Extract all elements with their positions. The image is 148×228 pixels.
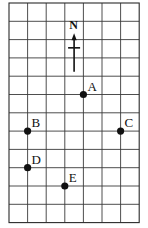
north-compass: N — [68, 18, 80, 71]
grid-map-diagram: N A B C D E — [0, 0, 148, 228]
point-a-dot — [80, 91, 87, 98]
point-a: A — [80, 79, 98, 99]
point-c-dot — [117, 128, 124, 135]
point-e-label: E — [69, 170, 77, 185]
point-c: C — [117, 115, 133, 135]
north-label: N — [69, 18, 78, 32]
point-b-dot — [24, 128, 31, 135]
points-layer: A B C D E — [24, 79, 133, 190]
point-b: B — [24, 115, 41, 135]
point-a-label: A — [87, 79, 97, 94]
point-d-dot — [24, 164, 31, 171]
point-d: D — [24, 152, 41, 172]
point-c-label: C — [125, 115, 134, 130]
point-e: E — [61, 170, 77, 190]
north-arrow-icon — [72, 33, 77, 40]
point-b-label: B — [32, 115, 41, 130]
point-e-dot — [61, 182, 68, 189]
point-d-label: D — [32, 152, 41, 167]
